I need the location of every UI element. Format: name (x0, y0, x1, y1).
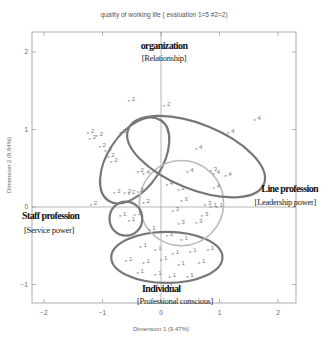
point-marker: * (166, 234, 169, 240)
group-ellipse-5 (110, 202, 143, 236)
point-marker: * (224, 174, 227, 180)
point-label: 1 (123, 211, 127, 217)
point-marker: * (110, 160, 113, 166)
point-label: 1 (152, 225, 156, 231)
point-label: 4 (228, 171, 232, 177)
point-label: 2 (132, 189, 136, 195)
point-label: 2 (146, 198, 150, 204)
point-marker: * (210, 205, 213, 211)
point-marker: * (207, 248, 210, 254)
y-axis-label: Dimension 2 (8.84%) (6, 137, 12, 193)
point-label: 4 (199, 144, 203, 150)
point-marker: * (177, 188, 180, 194)
x-tick-label: 0 (159, 309, 163, 316)
y-tick-label: 0 (24, 203, 28, 210)
point-marker: * (166, 183, 169, 189)
point-marker: * (177, 222, 180, 228)
mca-biplot: quality of working life ( evaluation 1=5… (0, 0, 328, 348)
point-label: 1 (173, 272, 177, 278)
point-marker: * (154, 273, 157, 279)
label-individual-sub: [Professional conscious] (137, 296, 214, 306)
point-marker: * (253, 118, 256, 124)
x-tick-label: −1 (99, 309, 107, 316)
point-marker: * (125, 259, 128, 265)
point-label: 1 (158, 245, 162, 251)
point-marker: * (198, 261, 201, 267)
point-marker: * (128, 219, 131, 225)
point-marker: * (180, 238, 183, 244)
point-label: 4 (190, 167, 194, 173)
point-marker: * (113, 191, 116, 197)
point-label: 1 (129, 256, 133, 262)
point-label: 4 (231, 128, 235, 134)
point-marker: * (195, 147, 198, 153)
point-label: 1 (184, 235, 188, 241)
plot-frame (32, 32, 296, 303)
point-label: 1 (202, 258, 206, 264)
y-tick-label: 1 (24, 126, 28, 133)
point-label: 1 (211, 245, 215, 251)
point-label: 3 (205, 211, 209, 217)
point-marker: * (136, 271, 139, 277)
label-organization: organization (141, 40, 189, 51)
point-marker: * (172, 209, 175, 215)
point-marker: * (142, 201, 145, 207)
point-label: 2 (132, 96, 136, 102)
point-marker: * (119, 214, 122, 220)
point-label: 4 (217, 169, 221, 175)
point-marker: * (177, 263, 180, 269)
point-label: 2 (94, 200, 98, 206)
x-tick-label: 1 (218, 309, 222, 316)
point-label: 1 (164, 255, 168, 261)
point-label: 1 (144, 242, 148, 248)
point-marker: * (139, 245, 142, 251)
point-label: 2 (117, 188, 121, 194)
label-staff-profession: Staff profession (22, 210, 80, 221)
point-label: 1 (146, 258, 150, 264)
point-marker: * (98, 145, 101, 151)
point-marker: * (172, 252, 175, 258)
label-line-profession: Line profession (261, 183, 319, 194)
point-marker: * (195, 221, 198, 227)
label-staff-profession-sub: [Service power] (24, 225, 74, 235)
point-label: 4 (258, 115, 262, 121)
point-label: 2 (167, 101, 171, 107)
point-marker: * (128, 99, 131, 105)
point-marker: * (160, 258, 163, 264)
point-marker: * (154, 248, 157, 254)
point-marker: * (215, 205, 218, 211)
point-marker: * (180, 199, 183, 205)
x-tick-label: 2 (276, 309, 280, 316)
chart-title: quality of working life ( evaluation 1=5… (100, 11, 227, 19)
point-marker: * (204, 203, 207, 209)
point-label: 1 (182, 260, 186, 266)
x-axis-label: Dimension 1 (9.47%) (133, 326, 189, 332)
point-label: 1 (193, 247, 197, 253)
point-label: 2 (103, 142, 107, 148)
label-line-profession-sub: [Leadership power] (255, 197, 317, 207)
point-marker: * (90, 203, 93, 209)
point-marker: * (124, 191, 127, 197)
point-marker: * (163, 104, 166, 110)
point-label: 1 (158, 270, 162, 276)
point-label: 2 (100, 131, 104, 137)
label-individual: Individual (142, 283, 181, 294)
point-marker: * (136, 170, 139, 176)
y-tick-label: 2 (24, 48, 28, 55)
y-tick-label: −1 (21, 281, 29, 288)
point-marker: * (186, 275, 189, 281)
point-marker: * (134, 213, 137, 219)
point-marker: * (88, 137, 91, 143)
point-marker: * (189, 250, 192, 256)
x-tick-label: −2 (40, 309, 48, 316)
point-marker: * (142, 261, 145, 267)
point-label: 1 (176, 249, 180, 255)
point-marker: * (142, 172, 145, 178)
point-marker: * (212, 186, 215, 192)
point-label: 1 (190, 272, 194, 278)
point-label: 1 (141, 268, 145, 274)
label-organization-sub: [Relationship] (142, 53, 187, 63)
point-label: 3 (184, 196, 188, 202)
point-marker: * (169, 275, 172, 281)
point-marker: * (186, 170, 189, 176)
